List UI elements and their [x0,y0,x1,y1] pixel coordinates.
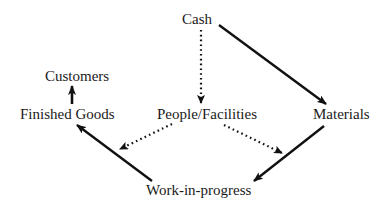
node-materials: Materials [313,106,370,123]
edge-materials-to-wip [254,126,324,181]
node-cash: Cash [182,11,212,28]
node-customers: Customers [45,68,109,85]
edge-people-facilities-to-wip [224,125,282,153]
diagram-edges [0,0,392,209]
node-people-facilities: People/Facilities [157,106,257,123]
edge-cash-to-materials [219,25,326,104]
diagram-canvas: Cash Customers Finished Goods People/Fac… [0,0,392,209]
node-work-in-progress: Work-in-progress [146,182,251,199]
node-finished-goods: Finished Goods [20,106,115,123]
edge-wip-to-finished-goods [77,125,152,181]
edge-people-facilities-to-finished-goods [120,124,172,149]
